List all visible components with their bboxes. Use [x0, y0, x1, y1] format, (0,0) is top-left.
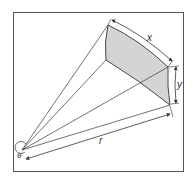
solid-angle-diagram: x y r θ: [0, 0, 196, 178]
label-x: x: [146, 32, 153, 43]
label-theta: θ: [17, 151, 22, 160]
label-y: y: [176, 79, 183, 90]
